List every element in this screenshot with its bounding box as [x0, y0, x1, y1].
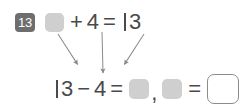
equals-operator-difference: =	[106, 76, 127, 102]
equals-operator: =	[99, 9, 120, 35]
top-equation: + 4 = 3	[43, 8, 141, 36]
bottom-equation-difference-blank[interactable]	[129, 79, 149, 99]
digit-one-stroke	[120, 11, 129, 33]
bottom-equation-minuend-ones-digit: 3	[61, 76, 73, 102]
minus-operator: −	[73, 76, 94, 102]
arrow-right-icon	[124, 33, 144, 66]
top-equation-blank-addend[interactable]	[45, 13, 64, 32]
bottom-equation: 3 − 4 = , =	[52, 74, 241, 104]
bottom-equation-subtrahend: 4	[94, 76, 106, 102]
top-equation-addend: 4	[87, 9, 99, 35]
answer-restate-blank[interactable]	[162, 79, 182, 99]
digit-one-stroke-minuend	[52, 78, 61, 100]
plus-operator: +	[66, 9, 87, 35]
top-equation-sum-ones-digit: 3	[129, 9, 141, 35]
math-worksheet-problem: 13 + 4 = 3 3 − 4 = , =	[0, 0, 244, 107]
equals-operator-answer: =	[184, 76, 205, 102]
arrow-center-icon	[102, 32, 103, 73]
final-answer-input-box[interactable]	[207, 74, 239, 104]
comma-separator: ,	[151, 83, 160, 104]
arrow-left-icon	[58, 33, 78, 66]
problem-number-badge: 13	[15, 13, 35, 32]
